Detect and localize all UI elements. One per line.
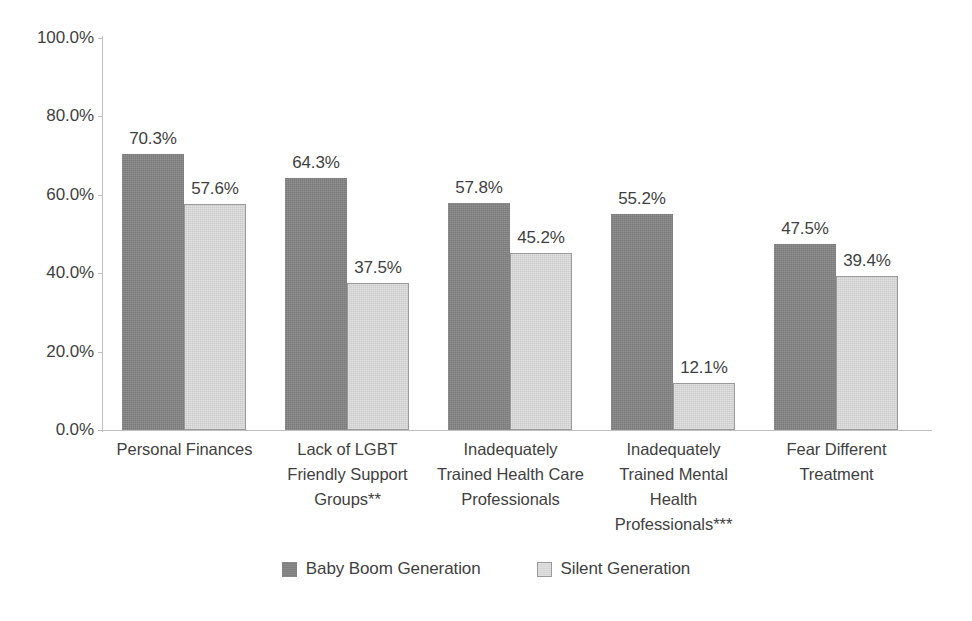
y-axis-tick-label: 0.0% — [56, 420, 94, 440]
x-axis-category-label-line: Trained Mental — [592, 462, 755, 487]
y-axis-tick — [98, 430, 103, 431]
x-axis-category-label: InadequatelyTrained Health CareProfessio… — [429, 437, 592, 512]
bar-silent[interactable]: 57.6% — [184, 204, 246, 430]
x-axis-category-label-line: Trained Health Care — [429, 462, 592, 487]
bar-fill — [184, 204, 246, 430]
x-axis-category-label-line: Inadequately — [592, 437, 755, 462]
bar-baby-boom[interactable]: 47.5% — [774, 244, 836, 430]
bar-silent[interactable]: 39.4% — [836, 276, 898, 430]
bar-group: 57.8%45.2% — [429, 38, 592, 430]
bar-baby-boom[interactable]: 70.3% — [122, 154, 184, 430]
bar-value-label: 64.3% — [292, 153, 340, 173]
bar-fill — [510, 253, 572, 430]
x-axis-category-label: Personal Finances — [103, 437, 266, 462]
bar-value-label: 12.1% — [680, 358, 728, 378]
x-axis-line — [102, 430, 932, 431]
bar-baby-boom[interactable]: 55.2% — [611, 214, 673, 430]
bar-silent[interactable]: 37.5% — [347, 283, 409, 430]
bar-silent[interactable]: 12.1% — [673, 383, 735, 430]
chart-legend: Baby Boom GenerationSilent Generation — [0, 559, 972, 579]
legend-item-baby-boom[interactable]: Baby Boom Generation — [282, 559, 481, 579]
x-axis-category-label-line: Professionals*** — [592, 512, 755, 537]
x-axis-category-label-line: Friendly Support — [266, 462, 429, 487]
y-axis-tick-label: 60.0% — [46, 185, 94, 205]
legend-swatch-icon — [282, 562, 297, 577]
x-axis-category-labels: Personal FinancesLack of LGBTFriendly Su… — [103, 437, 918, 537]
bar-value-label: 57.8% — [455, 178, 503, 198]
x-axis-category-label-line: Treatment — [755, 462, 918, 487]
x-axis-category-label-line: Groups** — [266, 487, 429, 512]
legend-label: Baby Boom Generation — [306, 559, 481, 579]
y-axis-tick-label: 80.0% — [46, 106, 94, 126]
bar-value-label: 45.2% — [517, 228, 565, 248]
y-axis-tick-label: 100.0% — [37, 28, 94, 48]
y-axis-tick-label: 40.0% — [46, 263, 94, 283]
x-axis-category-label-line: Professionals — [429, 487, 592, 512]
bar-fill — [448, 203, 510, 430]
x-axis-category-label-line: Fear Different — [755, 437, 918, 462]
bar-baby-boom[interactable]: 64.3% — [285, 178, 347, 430]
bar-fill — [836, 276, 898, 430]
x-axis-category-label: Lack of LGBTFriendly SupportGroups** — [266, 437, 429, 512]
plot-area: 100.0%80.0%60.0%40.0%20.0%0.0%70.3%57.6%… — [103, 38, 918, 430]
bar-silent[interactable]: 45.2% — [510, 253, 572, 430]
bar-fill — [347, 283, 409, 430]
bar-group: 47.5%39.4% — [755, 38, 918, 430]
x-axis-category-label: InadequatelyTrained MentalHealthProfessi… — [592, 437, 755, 537]
x-axis-category-label-line: Inadequately — [429, 437, 592, 462]
legend-item-silent[interactable]: Silent Generation — [537, 559, 691, 579]
x-axis-category-label: Fear DifferentTreatment — [755, 437, 918, 487]
x-axis-category-label-line: Health — [592, 487, 755, 512]
bar-fill — [774, 244, 836, 430]
bar-value-label: 57.6% — [191, 179, 239, 199]
x-axis-category-label-line: Personal Finances — [103, 437, 266, 462]
bar-group: 70.3%57.6% — [103, 38, 266, 430]
x-axis-category-label-line: Lack of LGBT — [266, 437, 429, 462]
bar-value-label: 55.2% — [618, 189, 666, 209]
bar-baby-boom[interactable]: 57.8% — [448, 203, 510, 430]
bar-group: 55.2%12.1% — [592, 38, 755, 430]
bar-fill — [122, 154, 184, 430]
bar-fill — [285, 178, 347, 430]
bar-value-label: 47.5% — [781, 219, 829, 239]
bar-value-label: 37.5% — [354, 258, 402, 278]
bar-fill — [673, 383, 735, 430]
legend-swatch-icon — [537, 562, 552, 577]
bar-value-label: 39.4% — [843, 251, 891, 271]
y-axis-tick-label: 20.0% — [46, 342, 94, 362]
bar-fill — [611, 214, 673, 430]
bar-chart: 100.0%80.0%60.0%40.0%20.0%0.0%70.3%57.6%… — [0, 0, 972, 621]
bar-group: 64.3%37.5% — [266, 38, 429, 430]
legend-label: Silent Generation — [561, 559, 691, 579]
bar-value-label: 70.3% — [129, 129, 177, 149]
